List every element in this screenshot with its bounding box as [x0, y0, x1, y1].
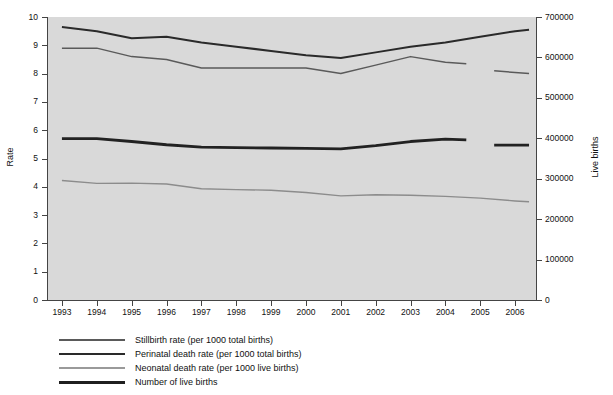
legend-line-swatch: [58, 353, 126, 355]
series-line: [62, 139, 466, 149]
legend-item: Stillbirth rate (per 1000 total births): [58, 333, 478, 347]
legend-item-label: Stillbirth rate (per 1000 total births): [126, 335, 273, 345]
legend-line-swatch: [58, 339, 126, 341]
legend-item: Number of live births: [58, 375, 478, 389]
y-axis-right-title: Live births: [590, 130, 600, 184]
legend-item-label: Neonatal death rate (per 1000 live birth…: [126, 363, 299, 373]
legend-item: Perinatal death rate (per 1000 total bir…: [58, 347, 478, 361]
series-line: [494, 71, 529, 74]
plot-wrapper: 012345678910 010000020000030000040000050…: [0, 0, 613, 330]
y-axis-left-title: Rate: [5, 137, 15, 177]
series-lines: [0, 0, 613, 330]
series-line: [62, 181, 529, 202]
chart-legend: Stillbirth rate (per 1000 total births)P…: [58, 333, 478, 389]
series-line: [62, 48, 466, 73]
legend-line-swatch: [58, 367, 126, 368]
series-line: [62, 27, 529, 58]
legend-item: Neonatal death rate (per 1000 live birth…: [58, 361, 478, 375]
legend-item-label: Number of live births: [126, 377, 218, 387]
legend-line-swatch: [58, 381, 126, 384]
legend-item-label: Perinatal death rate (per 1000 total bir…: [126, 349, 302, 359]
chart-figure: 012345678910 010000020000030000040000050…: [0, 0, 613, 395]
